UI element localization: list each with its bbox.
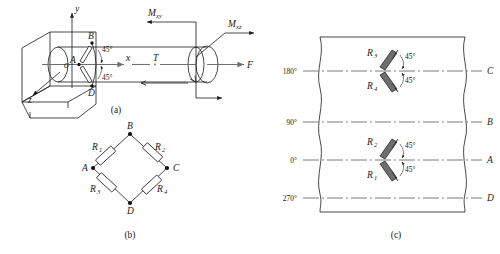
axis-label-z: z — [27, 95, 32, 105]
svg-text:R: R — [366, 137, 373, 147]
node-B-dot — [128, 132, 132, 136]
angle-45-upper-a: 45° — [102, 45, 113, 54]
svg-text:3: 3 — [96, 188, 101, 195]
torque-label-T: T — [153, 53, 159, 63]
axis-label-y: y — [74, 4, 80, 14]
z-axis — [33, 72, 60, 95]
node-A-dot — [91, 166, 95, 170]
svg-text:2: 2 — [374, 141, 378, 148]
node-letter-D: D — [486, 193, 494, 203]
svg-text:1: 1 — [374, 174, 377, 181]
point-B-dot — [90, 41, 93, 44]
rosette-0-label-lower: R 1 — [366, 170, 377, 181]
rosette-180-angle-upper: 45° — [405, 52, 416, 61]
svg-text:R: R — [89, 184, 96, 194]
rosette-0-angle-lower: 45° — [405, 165, 416, 174]
svg-text:2: 2 — [162, 146, 166, 153]
svg-text:R: R — [366, 81, 373, 91]
engineering-figure: y z x o T B A D 45° 45° F M — [0, 0, 500, 254]
caption-a: (a) — [111, 105, 122, 116]
angle-45-lower-a: 45° — [102, 73, 113, 82]
svg-text:R: R — [154, 142, 161, 152]
resistor-label-R3: R 3 — [89, 184, 101, 195]
resistor-label-R2: R 2 — [154, 142, 166, 153]
angle-label-180: 180° — [283, 67, 297, 76]
rosette-180: R 3 R 4 45° 45° — [366, 48, 416, 92]
node-C-dot — [165, 166, 169, 170]
rosette-180-label-upper: R 3 — [366, 48, 378, 59]
caption-b: (b) — [124, 230, 135, 241]
moment-xz-arrow — [196, 33, 254, 57]
svg-text:R: R — [366, 48, 373, 58]
node-D-dot — [128, 201, 132, 205]
point-label-D: D — [87, 88, 95, 98]
unrolled-surface-outline — [319, 37, 467, 212]
axis-label-x: x — [125, 53, 131, 63]
resistor-label-R4: R 4 — [156, 184, 168, 195]
rosette-180-label-lower: R 4 — [366, 81, 378, 92]
svg-text:R: R — [91, 142, 98, 152]
svg-text:R: R — [156, 184, 163, 194]
node-label-A: A — [81, 163, 88, 173]
svg-text:1: 1 — [99, 146, 102, 153]
resistor-label-R1: R 1 — [91, 142, 102, 153]
rosette-0: R 2 R 1 45° 45° — [366, 137, 416, 181]
node-letter-B: B — [487, 117, 493, 127]
svg-text:4: 4 — [374, 85, 378, 92]
svg-text:R: R — [366, 170, 373, 180]
rosette-0-angle-upper: 45° — [405, 141, 416, 150]
bridge-resistors — [95, 143, 162, 195]
angle-label-0: 0° — [290, 156, 297, 165]
node-label-C: C — [173, 163, 180, 173]
point-label-B: B — [88, 31, 94, 41]
subfigure-c: 180° 90° 0° 270° C B A D R 3 R 4 45° 45° — [283, 37, 494, 241]
subfigure-b: B A C D R 1 R 2 R 3 R 4 (b) — [81, 121, 180, 241]
origin-label: o — [64, 60, 69, 70]
point-label-A: A — [69, 55, 76, 65]
node-letter-A: A — [486, 155, 493, 165]
node-label-D: D — [126, 206, 134, 216]
moment-xz-subscript: xz — [235, 23, 242, 30]
rosette-180-angle-lower: 45° — [405, 76, 416, 85]
force-label-F: F — [246, 60, 253, 70]
angle-label-90: 90° — [287, 118, 298, 127]
angle-label-270: 270° — [283, 194, 297, 203]
svg-text:3: 3 — [373, 52, 378, 59]
reaction-bracket — [141, 65, 222, 99]
point-A-dot — [77, 63, 80, 66]
caption-c: (c) — [391, 230, 402, 241]
subfigure-a: y z x o T B A D 45° 45° F M — [22, 4, 254, 118]
moment-xy-subscript: xy — [155, 12, 162, 19]
svg-text:4: 4 — [164, 188, 168, 195]
rosette-0-label-upper: R 2 — [366, 137, 378, 148]
node-letter-C: C — [487, 66, 494, 76]
node-label-B: B — [127, 121, 133, 131]
